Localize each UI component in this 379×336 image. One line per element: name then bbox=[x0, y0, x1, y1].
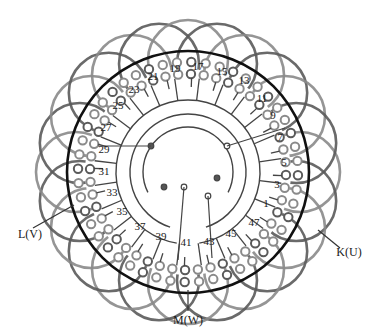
slot-number-label: 19 bbox=[170, 63, 181, 74]
slot-number-label: 47 bbox=[249, 217, 260, 228]
lead-terminal bbox=[230, 254, 238, 262]
lead-terminal bbox=[95, 232, 103, 240]
lead-terminal bbox=[289, 199, 297, 207]
slot-number-label: 13 bbox=[239, 75, 250, 86]
lead-terminal bbox=[139, 268, 147, 276]
terminal-label-L: L(V) bbox=[18, 228, 42, 240]
lead-terminal bbox=[292, 185, 300, 193]
lead-terminal bbox=[75, 150, 83, 158]
lead-terminal bbox=[87, 152, 95, 160]
terminal-label-M: M(W) bbox=[173, 314, 203, 326]
lead-terminal bbox=[99, 98, 107, 106]
slot-number-label: 31 bbox=[99, 166, 110, 177]
lead-terminal bbox=[86, 165, 94, 173]
lead-terminal bbox=[241, 247, 249, 255]
lead-terminal bbox=[246, 92, 254, 100]
lead-terminal bbox=[200, 71, 208, 79]
lead-terminal bbox=[104, 225, 112, 233]
lead-terminal bbox=[97, 214, 105, 222]
lead-terminal bbox=[294, 171, 302, 179]
lead-terminal bbox=[83, 123, 91, 131]
slot-number-label: 45 bbox=[226, 228, 237, 239]
lead-terminal bbox=[284, 213, 292, 221]
lead-terminal bbox=[229, 67, 237, 75]
lead-terminal bbox=[259, 248, 267, 256]
lead-terminal bbox=[206, 263, 214, 271]
lead-terminal bbox=[77, 193, 85, 201]
lead-terminal bbox=[282, 171, 290, 179]
lead-terminal bbox=[181, 266, 189, 274]
slot-number-label: 9 bbox=[270, 110, 276, 121]
slot-number-label: 27 bbox=[101, 122, 112, 133]
lead-terminal bbox=[114, 253, 122, 261]
lead-terminal bbox=[159, 61, 167, 69]
lead-terminal bbox=[281, 184, 289, 192]
lead-terminal bbox=[287, 129, 295, 137]
lead-terminal bbox=[281, 116, 289, 124]
slot-number-label: 15 bbox=[217, 66, 228, 77]
lead-terminal bbox=[168, 265, 176, 273]
slot-number-label: 29 bbox=[99, 144, 110, 155]
slot-number-label: 1 bbox=[263, 198, 269, 209]
lead-terminal bbox=[86, 178, 94, 186]
junction-node bbox=[214, 175, 220, 181]
lead-terminal bbox=[223, 271, 231, 279]
slot-number-label: 17 bbox=[193, 61, 204, 72]
lead-terminal bbox=[181, 278, 189, 286]
lead-terminal bbox=[273, 208, 281, 216]
lead-terminal bbox=[156, 262, 164, 270]
junction-node bbox=[161, 184, 167, 190]
lead-terminal bbox=[260, 230, 268, 238]
lead-terminal bbox=[74, 165, 82, 173]
terminal-label-K: K(U) bbox=[336, 246, 361, 258]
slot-number-label: 35 bbox=[117, 206, 128, 217]
slot-number-label: 37 bbox=[135, 221, 146, 232]
slot-number-label: 5 bbox=[281, 157, 287, 168]
lead-terminal bbox=[144, 257, 152, 265]
winding-diagram: 1719212325272931333537394143454713579111… bbox=[0, 0, 379, 336]
slot-number-label: 43 bbox=[204, 236, 215, 247]
slot-number-label: 33 bbox=[107, 187, 118, 198]
lead-terminal bbox=[277, 226, 285, 234]
lead-terminal bbox=[267, 219, 275, 227]
slot-number-label: 23 bbox=[129, 84, 140, 95]
lead-terminal bbox=[253, 83, 261, 91]
slot-number-label: 21 bbox=[148, 71, 159, 82]
slot-number-label: 25 bbox=[113, 100, 124, 111]
lead-terminal bbox=[270, 121, 278, 129]
lead-terminal bbox=[126, 261, 134, 269]
slot-number-label: 39 bbox=[156, 231, 167, 242]
lead-terminal bbox=[90, 110, 98, 118]
lead-terminal bbox=[248, 257, 256, 265]
lead-terminal bbox=[122, 244, 130, 252]
slot-number-label: 41 bbox=[181, 237, 192, 248]
lead-terminal bbox=[132, 251, 140, 259]
lead-terminal bbox=[108, 88, 116, 96]
lead-terminal bbox=[269, 237, 277, 245]
lead-terminal bbox=[90, 140, 98, 148]
lead-terminal bbox=[74, 179, 82, 187]
lead-terminal bbox=[152, 273, 160, 281]
lead-terminal bbox=[235, 84, 243, 92]
lead-terminal bbox=[194, 265, 202, 273]
lead-terminal bbox=[291, 143, 299, 151]
slot-number-label: 7 bbox=[277, 132, 283, 143]
lead-terminal bbox=[119, 79, 127, 87]
lead-terminal bbox=[104, 243, 112, 251]
lead-terminal bbox=[209, 275, 217, 283]
lead-terminal bbox=[166, 276, 174, 284]
lead-terminal bbox=[224, 78, 232, 86]
lead-terminal bbox=[278, 196, 286, 204]
lead-terminal bbox=[236, 265, 244, 273]
slot-number-label: 11 bbox=[257, 93, 268, 104]
lead-terminal bbox=[279, 145, 287, 153]
winding-diagram-canvas bbox=[0, 0, 379, 336]
lead-terminal bbox=[219, 259, 227, 267]
lead-terminal bbox=[132, 71, 140, 79]
lead-terminal bbox=[78, 136, 86, 144]
lead-terminal bbox=[293, 157, 301, 165]
lead-terminal bbox=[92, 203, 100, 211]
lead-terminal bbox=[88, 190, 96, 198]
lead-terminal bbox=[195, 277, 203, 285]
slot-number-label: 3 bbox=[274, 179, 280, 190]
